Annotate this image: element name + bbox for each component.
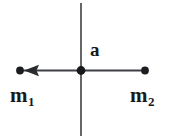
acceleration-label: a <box>90 40 100 59</box>
diagram-canvas <box>0 0 171 139</box>
mass-1-label-subscript: 1 <box>28 94 35 109</box>
mass-2-point-marker <box>141 67 149 75</box>
mass-1-label-base: m <box>10 83 28 107</box>
physics-diagram: a m1 m2 <box>0 0 171 139</box>
mass-2-label-base: m <box>130 83 148 107</box>
mass-2-label: m2 <box>130 85 154 106</box>
center-point-marker <box>77 66 86 75</box>
mass-1-label: m1 <box>10 85 34 106</box>
mass-1-point-marker <box>16 67 24 75</box>
mass-2-label-subscript: 2 <box>148 94 155 109</box>
